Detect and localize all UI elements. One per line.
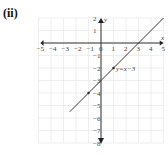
y-tick-label: 2 — [93, 15, 97, 23]
x-tick-label: 5 — [162, 45, 166, 53]
y-tick-label: 1 — [93, 27, 97, 35]
x-tick-label: −5 — [37, 45, 45, 53]
x-tick-label: 2 — [124, 45, 128, 53]
x-tick-label: −3 — [62, 45, 70, 53]
y-tick-label: −7 — [93, 127, 101, 135]
data-point — [112, 67, 114, 69]
x-tick-label: 3 — [137, 45, 141, 53]
y-tick-label: −8 — [93, 140, 101, 148]
y-tick-label: −2 — [93, 65, 101, 73]
x-tick-label: −4 — [49, 45, 57, 53]
y-axis-label: y — [103, 16, 108, 24]
x-tick-label: 1 — [112, 45, 116, 53]
data-point — [87, 92, 89, 94]
y-tick-label: −5 — [93, 102, 101, 110]
y-tick-label: −6 — [93, 115, 101, 123]
x-tick-label: 4 — [149, 45, 153, 53]
coordinate-graph: −5−4−3−2−101234521−1−2−3−4−5−6−7−8 y=x−3… — [0, 0, 168, 155]
x-tick-label: −2 — [74, 45, 82, 53]
x-axis-label: x — [160, 34, 165, 42]
line-annotation: y=x−3 — [115, 65, 136, 73]
y-tick-label: −4 — [93, 90, 101, 98]
y-tick-label: −1 — [93, 52, 101, 60]
y-tick-label: −3 — [93, 77, 101, 85]
